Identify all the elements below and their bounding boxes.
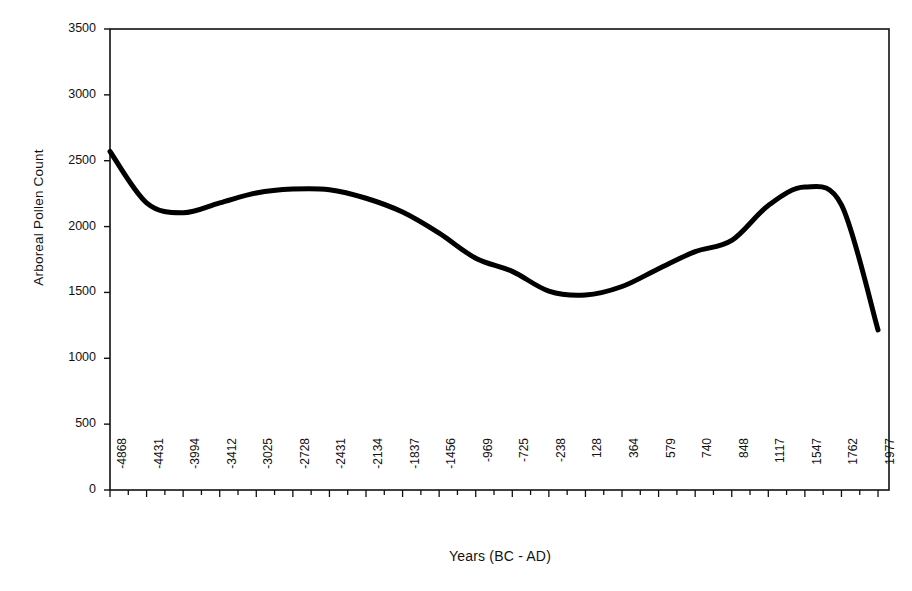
x-axis-tick-label: -725: [517, 438, 531, 498]
x-axis-tick-label: -3994: [188, 438, 202, 498]
plot-frame: [110, 29, 889, 490]
y-axis-tick-label: 2000: [34, 219, 96, 233]
x-axis-tick-label: -238: [554, 438, 568, 498]
x-axis-tick-label: -4431: [152, 438, 166, 498]
y-axis-tick-label: 500: [34, 416, 96, 430]
x-axis-tick-label: -1456: [444, 438, 458, 498]
x-axis-tick-label: -4868: [115, 438, 129, 498]
x-axis-tick-label: 364: [627, 438, 641, 498]
x-axis-tick-label: 1977: [883, 438, 897, 498]
x-axis-tick-label: 1762: [846, 438, 860, 498]
x-axis-tick-label: -2431: [334, 438, 348, 498]
data-series-line: [110, 151, 878, 329]
x-axis-tick-label: -2134: [371, 438, 385, 498]
x-axis-tick-label: 848: [737, 438, 751, 498]
x-axis-tick-label: 128: [590, 438, 604, 498]
x-axis-tick-label: 1117: [773, 438, 787, 498]
x-axis-tick-label: -2728: [298, 438, 312, 498]
x-axis-tick-label: -969: [481, 438, 495, 498]
x-axis-tick-label: -3412: [225, 438, 239, 498]
x-axis-tick-label: 740: [700, 438, 714, 498]
pollen-count-line-chart: Arboreal Pollen Count Years (BC - AD) 05…: [0, 0, 912, 591]
x-axis-tick-label: -1837: [408, 438, 422, 498]
y-axis-tick-label: 1500: [34, 284, 96, 298]
y-axis-tick-label: 0: [34, 482, 96, 496]
y-axis-tick-label: 2500: [34, 153, 96, 167]
x-axis-tick-label: 579: [664, 438, 678, 498]
x-axis-tick-label: -3025: [261, 438, 275, 498]
x-axis-tick-label: 1547: [810, 438, 824, 498]
y-axis-tick-label: 3000: [34, 87, 96, 101]
plot-area: [0, 0, 912, 591]
y-axis-tick-label: 1000: [34, 350, 96, 364]
y-axis-tick-label: 3500: [34, 21, 96, 35]
y-axis-ticks: [104, 29, 110, 490]
